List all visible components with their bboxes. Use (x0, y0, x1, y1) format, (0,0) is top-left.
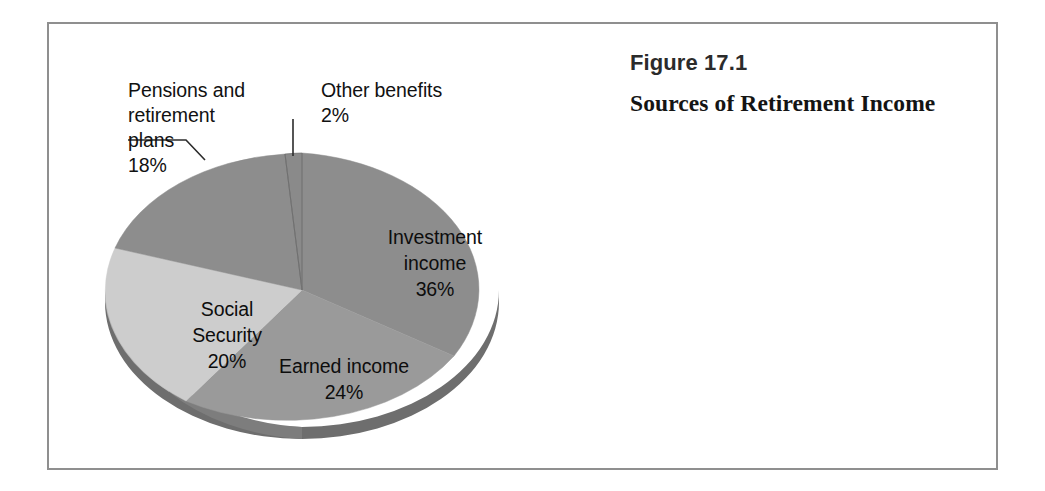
figure-number: Figure 17.1 (630, 49, 960, 77)
figure-title-block: Figure 17.1 Sources of Retirement Income (630, 49, 960, 118)
figure-frame: Pensions and retirement plans 18% Other … (47, 22, 998, 470)
label-social-security: Social Security 20% (167, 296, 287, 374)
figure-title: Sources of Retirement Income (630, 89, 960, 118)
label-pensions-retirement-plans: Pensions and retirement plans 18% (128, 78, 245, 178)
label-investment-income: Investment income 36% (349, 224, 521, 302)
pie-chart: Pensions and retirement plans 18% Other … (49, 24, 669, 472)
label-other-benefits: Other benefits 2% (321, 78, 442, 128)
